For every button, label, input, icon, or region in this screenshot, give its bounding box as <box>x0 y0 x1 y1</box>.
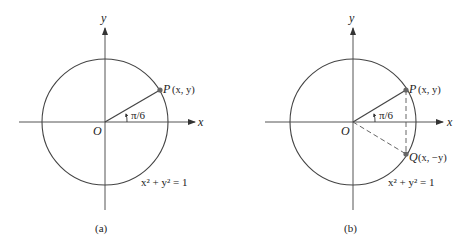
point-q-coords: (x, −y) <box>418 152 447 164</box>
origin-label: O <box>341 124 350 138</box>
point-p-coords: (x, y) <box>172 84 195 96</box>
caption-a: (a) <box>95 222 108 235</box>
panel-a: y x O P (x, y) π/6 x² + y² = 1 (a) <box>19 11 204 235</box>
angle-arc-icon <box>374 114 375 122</box>
angle-label: π/6 <box>379 109 394 121</box>
caption-b: (b) <box>344 222 357 235</box>
panel-b: y x O P (x, y) Q (x, −y) π/6 x² + y² = 1… <box>265 11 453 235</box>
circle-equation: x² + y² = 1 <box>141 176 188 188</box>
x-axis-label: x <box>197 115 204 129</box>
radius-oq-dashed <box>353 122 406 154</box>
point-q-label: Q <box>409 150 418 164</box>
y-axis-label: y <box>348 11 355 25</box>
point-q <box>403 151 408 156</box>
point-p-label: P <box>408 82 417 96</box>
point-p <box>403 87 408 92</box>
origin-label: O <box>93 124 102 138</box>
y-axis-label: y <box>100 11 107 25</box>
circle-equation: x² + y² = 1 <box>388 176 435 188</box>
point-p-label: P <box>162 82 171 96</box>
point-p-coords: (x, y) <box>418 84 441 96</box>
unit-circle-figure: y x O P (x, y) π/6 x² + y² = 1 (a) y x O… <box>0 0 462 251</box>
angle-arc-icon <box>126 114 127 122</box>
x-axis-label: x <box>446 115 453 129</box>
point-p <box>157 87 162 92</box>
angle-label: π/6 <box>131 109 146 121</box>
